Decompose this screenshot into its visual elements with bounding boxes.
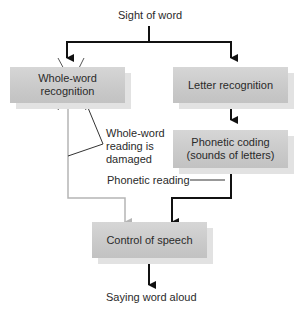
arrow-to-letter <box>149 42 231 58</box>
bottom-label-saying-word-aloud: Saying word aloud <box>106 291 197 304</box>
phonetic-coding-line1: Phonetic coding <box>191 136 269 149</box>
phonetic-coding-line2: (sounds of letters) <box>186 149 274 162</box>
box-phonetic-coding: Phonetic coding (sounds of letters) <box>173 130 288 168</box>
whole-word-label: Whole-word recognition <box>10 72 125 98</box>
damaged-annotation: Whole-word reading is damaged <box>106 127 165 166</box>
damaged-line2: reading is <box>106 140 165 153</box>
top-label-sight-of-word: Sight of word <box>118 9 182 22</box>
box-whole-word-recognition: Whole-word recognition <box>10 67 125 103</box>
damaged-line1: Whole-word <box>106 127 165 140</box>
damaged-line3: damaged <box>106 153 165 166</box>
letter-label: Letter recognition <box>188 79 273 92</box>
arrow-to-whole-word <box>67 26 149 58</box>
damaged-pointer <box>68 103 103 156</box>
phonetic-reading-annotation: Phonetic reading <box>107 174 190 187</box>
control-label: Control of speech <box>106 234 192 247</box>
arrow-phonetic-to-control <box>172 162 231 222</box>
box-letter-recognition: Letter recognition <box>173 67 288 103</box>
box-control-of-speech: Control of speech <box>92 222 207 258</box>
